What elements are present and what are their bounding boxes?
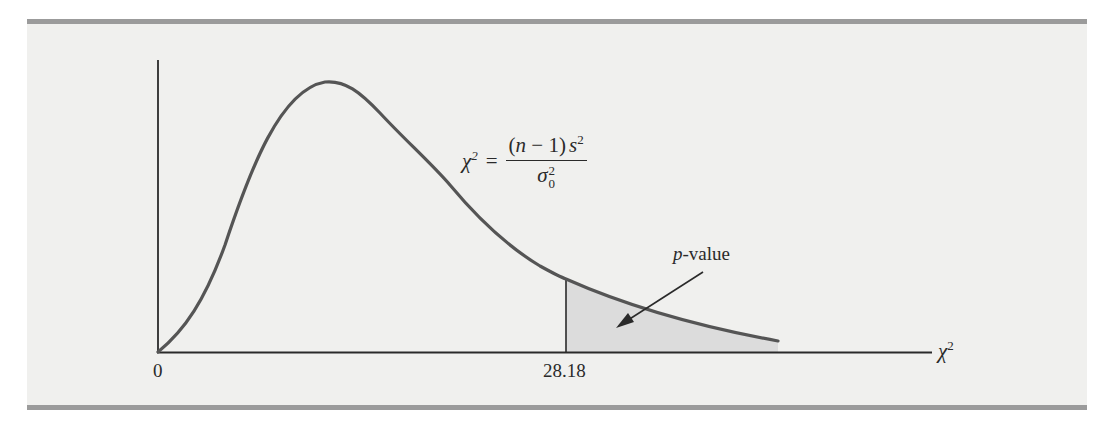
chi-square-formula: χ2 = (n − 1)s2 σ20 [462, 132, 587, 190]
x-axis-label: χ2 [938, 338, 954, 364]
pvalue-label: p-value [673, 244, 730, 263]
chi-square-curve [158, 82, 778, 352]
formula-equals: = [486, 149, 498, 174]
formula-numerator: (n − 1)s2 [506, 132, 587, 161]
formula-fraction: (n − 1)s2 σ20 [506, 132, 587, 190]
critical-value-tick-label: 28.18 [543, 361, 586, 380]
origin-tick-label: 0 [153, 361, 163, 380]
formula-lhs: χ2 [462, 148, 478, 174]
formula-denominator: σ20 [537, 161, 555, 190]
